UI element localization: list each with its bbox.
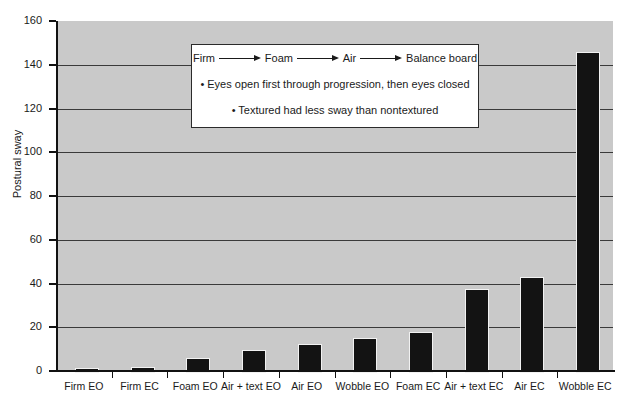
right-arrow-icon [360,54,402,63]
gridline [58,240,613,241]
y-tick-label: 160 [8,15,42,26]
y-tick-label: 0 [8,365,42,376]
y-tick-label: 120 [8,103,42,114]
y-tick-mark [49,64,56,66]
right-arrow-icon [219,54,261,63]
x-tick-label: Firm EC [120,380,159,392]
y-tick-mark [49,283,56,285]
y-tick-mark [49,239,56,241]
x-tick-label: Air + text EC [444,380,503,392]
y-tick-mark [49,195,56,197]
y-tick-mark [49,370,56,372]
y-tick-mark [49,20,56,22]
x-axis-line [56,370,615,372]
y-tick-label: 60 [8,234,42,245]
x-tick-mark [112,372,113,378]
y-tick-mark [49,151,56,153]
annotation-box: FirmFoamAirBalance board • Eyes open fir… [191,44,479,128]
y-tick-label: 100 [8,146,42,157]
progression-term: Air [342,52,357,64]
x-tick-label: Air + text EO [221,380,281,392]
x-tick-mark [279,372,280,378]
progression-term: Balance board [405,52,478,64]
x-tick-mark [167,372,168,378]
gridline [58,152,613,153]
y-tick-label: 80 [8,190,42,201]
x-tick-label: Foam EC [396,380,440,392]
x-tick-mark [557,372,558,378]
x-tick-mark [223,372,224,378]
x-tick-mark [502,372,503,378]
x-tick-mark [390,372,391,378]
x-tick-mark [335,372,336,378]
y-tick-mark [49,326,56,328]
bar [353,338,377,373]
bar [298,344,322,373]
bar [409,332,433,373]
progression-row: FirmFoamAirBalance board [192,52,478,64]
x-tick-mark [446,372,447,378]
x-tick-label: Firm EO [64,380,103,392]
bar [576,52,600,373]
x-tick-label: Wobble EO [336,380,390,392]
progression-term: Firm [192,52,216,64]
annotation-bullet-2: • Textured had less sway than nontexture… [192,104,478,116]
y-tick-label: 40 [8,278,42,289]
bar [520,277,544,373]
y-tick-label: 20 [8,321,42,332]
x-tick-label: Air EC [514,380,544,392]
progression-term: Foam [264,52,294,64]
bar [465,289,489,373]
annotation-bullet-1: • Eyes open first through progression, t… [192,78,478,90]
gridline [58,196,613,197]
y-tick-label: 140 [8,59,42,70]
y-tick-mark [49,108,56,110]
chart-figure: Postural sway 020406080100120140160 Firm… [0,0,630,404]
right-arrow-icon [297,54,339,63]
x-tick-label: Foam EO [173,380,218,392]
x-tick-label: Wobble EC [559,380,612,392]
x-tick-label: Air EO [291,380,322,392]
